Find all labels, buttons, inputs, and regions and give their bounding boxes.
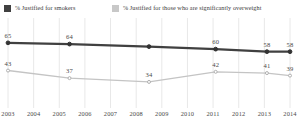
legend-swatch-overweight <box>112 5 119 12</box>
x-tick-label: 2011 <box>207 110 220 117</box>
data-point-value-label: 58 <box>264 41 271 48</box>
data-point-marker[interactable] <box>288 50 292 54</box>
line-chart: % Justified for smokers % Justified for … <box>0 0 306 125</box>
data-point-value-label: 37 <box>66 67 73 74</box>
legend-label-overweight: % Justified for those who are significan… <box>123 4 262 12</box>
legend-swatch-smokers <box>4 5 11 12</box>
data-point-value-label: 34 <box>146 71 153 78</box>
data-point-marker[interactable] <box>214 70 217 73</box>
data-point-marker[interactable] <box>7 69 10 72</box>
x-tick-label: 2009 <box>155 110 168 117</box>
data-point-marker[interactable] <box>265 50 269 54</box>
data-point-value-label: 41 <box>264 62 271 69</box>
data-point-marker[interactable] <box>68 77 71 80</box>
data-point-value-label: 43 <box>5 60 12 67</box>
x-axis: 2003200420052006200720082009201020112012… <box>0 110 306 125</box>
x-tick-label: 2007 <box>104 110 117 117</box>
data-point-value-label: 42 <box>212 61 219 68</box>
data-point-marker[interactable] <box>148 80 151 83</box>
plot-svg <box>0 18 306 108</box>
legend-entry-overweight[interactable]: % Justified for those who are significan… <box>112 0 262 16</box>
data-point-value-label: 65 <box>5 32 12 39</box>
data-point-marker[interactable] <box>265 72 268 75</box>
x-tick-label: 2004 <box>27 110 40 117</box>
x-tick-label: 2014 <box>283 110 296 117</box>
x-tick-label: 2013 <box>258 110 271 117</box>
data-point-marker[interactable] <box>147 45 151 49</box>
data-point-marker[interactable] <box>6 41 10 45</box>
data-point-value-label: 64 <box>66 33 73 40</box>
chart-legend: % Justified for smokers % Justified for … <box>0 0 306 16</box>
x-tick-label: 2012 <box>232 110 245 117</box>
gridlines <box>8 18 290 108</box>
x-tick-label: 2003 <box>1 110 14 117</box>
data-point-value-label: 60 <box>212 38 219 45</box>
x-tick-label: 2008 <box>129 110 142 117</box>
legend-entry-smokers[interactable]: % Justified for smokers <box>4 0 75 16</box>
plot-area: 6564605858433734424139 <box>0 18 306 108</box>
x-tick-label: 2010 <box>181 110 194 117</box>
legend-label-smokers: % Justified for smokers <box>15 4 75 12</box>
x-tick-label: 2006 <box>78 110 91 117</box>
x-tick-label: 2005 <box>53 110 66 117</box>
data-point-value-label: 39 <box>287 65 294 72</box>
data-point-marker[interactable] <box>289 74 292 77</box>
data-point-marker[interactable] <box>214 47 218 51</box>
data-point-value-label: 58 <box>287 41 294 48</box>
data-point-marker[interactable] <box>68 42 72 46</box>
